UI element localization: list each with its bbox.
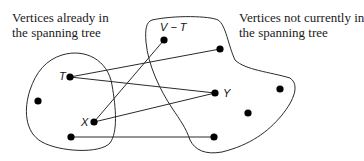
vertex-label-y: Y xyxy=(223,87,230,99)
caption-tree-line1: Vertices already in xyxy=(12,10,109,25)
vertex-bottom-right xyxy=(210,133,217,140)
caption-tree-vertices: Vertices already in the spanning tree xyxy=(12,10,109,40)
vertex-top-right xyxy=(216,45,223,52)
vertex-x xyxy=(90,118,97,125)
vertex-bottom-left xyxy=(67,133,74,140)
caption-non-tree-vertices: Vertices not currently in the spanning t… xyxy=(239,10,364,40)
vertex-far-right xyxy=(276,85,283,92)
vertex-left xyxy=(34,97,41,104)
edge-t-y xyxy=(70,77,215,93)
vertex-t xyxy=(66,73,73,80)
set-label-v-minus-t: V − T xyxy=(160,21,187,33)
edge-x-y xyxy=(94,93,215,122)
caption-non-tree-line1: Vertices not currently in xyxy=(239,10,364,25)
vertex-label-t: T xyxy=(59,70,66,82)
vertex-y xyxy=(211,89,218,96)
vertex-top xyxy=(160,36,167,43)
vertex-label-x: X xyxy=(81,116,88,128)
caption-tree-line2: the spanning tree xyxy=(12,25,109,40)
vertex-mid-right xyxy=(244,109,251,116)
caption-non-tree-line2: the spanning tree xyxy=(239,25,364,40)
